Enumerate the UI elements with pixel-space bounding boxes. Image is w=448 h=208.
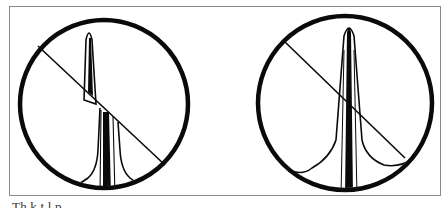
- spectral-line-diagram: [0, 0, 448, 208]
- left-diagonal-line: [38, 46, 165, 165]
- left-spike-upper: [84, 33, 96, 104]
- figure-caption: Th k t l p: [12, 200, 62, 208]
- right-diagonal-line: [285, 42, 405, 158]
- right-spike: [258, 28, 414, 196]
- right-panel: [258, 16, 432, 196]
- right-circle: [258, 16, 432, 190]
- left-panel: [20, 20, 188, 196]
